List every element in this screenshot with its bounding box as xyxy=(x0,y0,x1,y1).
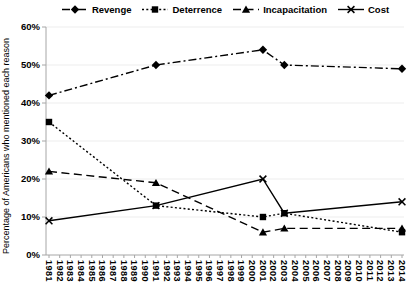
y-tick-label: 60% xyxy=(21,21,41,32)
square-marker xyxy=(46,119,52,125)
diamond-marker xyxy=(152,61,160,69)
series-incapacitation xyxy=(45,168,406,236)
x-tick-label: 2011 xyxy=(365,260,375,282)
x-tick-label: 1995 xyxy=(194,260,204,282)
y-axis-title: Percentage of Americans who mentioned ea… xyxy=(1,38,11,254)
x-tick-label: 2008 xyxy=(333,260,343,282)
x-tick-label: 2013 xyxy=(386,260,396,282)
x-tick-label: 1987 xyxy=(108,260,118,282)
series-line xyxy=(49,179,402,221)
x-tick-label: 1996 xyxy=(204,260,214,282)
y-tick-label: 40% xyxy=(21,97,41,108)
x-tick-label: 1997 xyxy=(215,260,225,282)
x-tick-label: 2004 xyxy=(290,260,300,282)
y-tick-label: 0% xyxy=(26,249,40,260)
x-tick-label: 1994 xyxy=(183,260,193,282)
x-tick-label: 2002 xyxy=(268,260,278,282)
y-tick-label: 10% xyxy=(21,211,41,222)
series-line xyxy=(49,50,402,96)
x-tick-label: 1999 xyxy=(236,260,246,282)
triangle-marker xyxy=(398,225,406,232)
x-tick-label: 2000 xyxy=(247,260,257,282)
x-tick-label: 2001 xyxy=(258,260,268,282)
diamond-marker xyxy=(280,61,288,69)
x-tick-label: 1984 xyxy=(76,260,86,282)
y-tick-label: 20% xyxy=(21,173,41,184)
x-tick-label: 1992 xyxy=(162,260,172,282)
y-tick-label: 50% xyxy=(21,59,41,70)
diamond-marker xyxy=(398,65,406,73)
y-tick-labels: 0%10%20%30%40%50%60% xyxy=(21,21,46,260)
series-revenge xyxy=(45,46,406,100)
chart-figure: RevengeDeterrenceIncapacitationCost 0%10… xyxy=(0,0,407,290)
x-tick-label: 1981 xyxy=(44,260,54,282)
diamond-marker xyxy=(259,46,267,54)
x-tick-label: 1993 xyxy=(172,260,182,282)
x-tick-label: 2014 xyxy=(397,260,407,282)
square-marker xyxy=(260,214,266,220)
x-tick-label: 1983 xyxy=(65,260,75,282)
x-tick-label: 2003 xyxy=(279,260,289,282)
x-tick-label: 1988 xyxy=(119,260,129,282)
x-tick-label: 2012 xyxy=(375,260,385,282)
x-tick-label: 1990 xyxy=(140,260,150,282)
x-tick-label: 1991 xyxy=(151,260,161,282)
x-tick-label: 2005 xyxy=(301,260,311,282)
x-tick-label: 1986 xyxy=(97,260,107,282)
x-tick-label: 2010 xyxy=(354,260,364,282)
x-tick-label: 2007 xyxy=(322,260,332,282)
x-tick-label: 1985 xyxy=(87,260,97,282)
x-tick-label: 2009 xyxy=(343,260,353,282)
x-tick-labels: 1981198219831984198519861987198819891990… xyxy=(44,255,407,282)
y-tick-label: 30% xyxy=(21,135,41,146)
x-tick-label: 1989 xyxy=(129,260,139,282)
x-tick-label: 2006 xyxy=(311,260,321,282)
x-tick-label: 1998 xyxy=(226,260,236,282)
x-tick-label: 1982 xyxy=(55,260,65,282)
reasons-line-chart: 0%10%20%30%40%50%60%19811982198319841985… xyxy=(0,0,407,290)
series-line xyxy=(49,171,402,232)
